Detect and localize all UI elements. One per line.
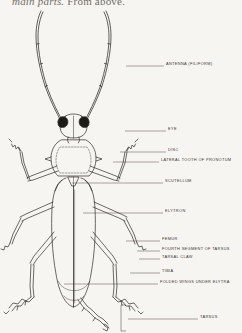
antenna-left: [36, 11, 64, 124]
label-femur: FEMUR: [162, 237, 178, 241]
label-lateral-tooth: LATERAL TOOTH OF PRONOTUM: [161, 158, 231, 162]
label-tarsus: TARSUS: [200, 315, 218, 319]
label-disc: DISC: [168, 148, 179, 152]
leg-front-right: [89, 139, 138, 181]
label-fourth-segment: FOURTH SEGMENT OF TARSUS: [162, 247, 230, 251]
label-scutellum: SCUTELLUM: [165, 179, 192, 183]
pronotum: [45, 140, 102, 176]
illustration-page: main parts. From above.: [0, 0, 242, 333]
label-eye: EYE: [168, 127, 177, 131]
leg-front-left: [9, 139, 58, 181]
label-elytron: ELYTRON: [165, 209, 186, 213]
label-tarsal-claw: TARSAL CLAW: [162, 255, 193, 259]
tarsus-detail: [78, 298, 109, 331]
antenna-right: [83, 11, 111, 124]
label-folded-wings: FOLDED WINGS UNDER ELYTRA: [160, 280, 230, 284]
bracket-path: [121, 305, 126, 331]
label-antenna: ANTENNA (FILIFORM): [166, 62, 213, 66]
label-tibia: TIBIA: [162, 269, 173, 273]
scutellum: [68, 177, 79, 186]
tarsus-bracket: [121, 305, 126, 331]
leg-middle-right: [93, 202, 146, 250]
leg-hind-left: [4, 232, 56, 314]
elytra: [52, 178, 96, 307]
leg-middle-left: [1, 202, 54, 250]
